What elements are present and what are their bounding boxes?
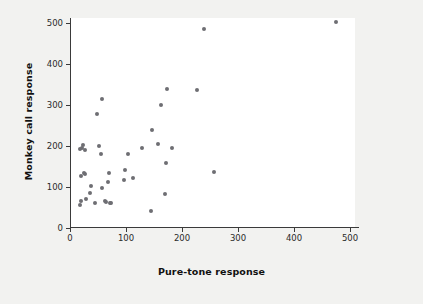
data-point [79,199,83,203]
y-tick-label: 500 [38,18,63,28]
data-point [159,103,163,107]
y-tick-mark [66,228,70,229]
y-tick-mark [66,105,70,106]
x-tick-mark [350,228,351,232]
x-tick-label: 300 [230,233,246,243]
data-point [163,192,167,196]
scatter-plot-figure: 0100200300400500 0100200300400500 Pure-t… [0,0,423,304]
y-tick-label: 200 [38,141,63,151]
plot-area [70,18,355,228]
x-tick-mark [238,228,239,232]
y-tick-mark [66,23,70,24]
x-axis-title: Pure-tone response [0,266,423,277]
data-point [212,170,216,174]
x-tick-mark [294,228,295,232]
data-point [131,176,135,180]
y-tick-label: 100 [38,182,63,192]
data-point [149,209,153,213]
data-point [195,88,199,92]
data-point [150,128,154,132]
y-tick-mark [66,146,70,147]
data-point [109,201,113,205]
data-point [83,148,87,152]
y-tick-label: 0 [38,223,63,233]
data-point [84,197,88,201]
y-tick-label: 300 [38,100,63,110]
x-axis-line [70,227,359,228]
y-axis-line [70,18,71,228]
y-tick-mark [66,187,70,188]
data-point [99,152,103,156]
x-tick-label: 400 [286,233,302,243]
x-tick-mark [182,228,183,232]
x-tick-label: 0 [67,233,72,243]
x-tick-label: 200 [174,233,190,243]
x-tick-label: 500 [342,233,358,243]
data-point [126,152,130,156]
y-tick-mark [66,64,70,65]
y-axis-title: Monkey call response [23,32,34,212]
x-tick-mark [70,228,71,232]
data-point [122,178,126,182]
x-tick-label: 100 [118,233,134,243]
y-tick-label: 400 [38,59,63,69]
data-point [93,201,97,205]
data-point [100,97,104,101]
data-point [78,203,82,207]
x-tick-mark [126,228,127,232]
